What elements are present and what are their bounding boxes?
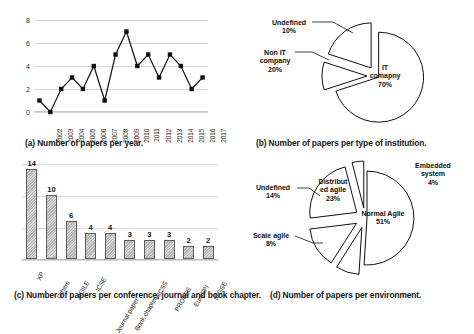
x-axis-tick-label: 2017 xyxy=(219,129,226,143)
pie-chart-b: ITcomapny70%Undefined10%Non ITcompany20% xyxy=(237,8,474,138)
data-point-marker xyxy=(92,64,96,68)
pie-slice-label: 8% xyxy=(266,240,277,247)
data-point-marker xyxy=(37,98,41,102)
pie-slice-label: Distribut xyxy=(319,178,348,185)
y-axis-tick-label: 2 xyxy=(26,86,30,93)
y-axis-tick-label: 8 xyxy=(26,17,30,24)
x-axis-tick-label: 2011 xyxy=(154,128,161,141)
y-axis-tick-label: 4 xyxy=(26,63,30,70)
bar-value-label: 2 xyxy=(186,236,190,245)
gridline xyxy=(22,260,218,261)
caption-c: (c) Number of papers per conference, jou… xyxy=(14,290,261,300)
line-series-path xyxy=(39,32,202,113)
data-point-marker xyxy=(157,75,161,79)
bar xyxy=(124,240,135,259)
pie-slice-label: Embedded xyxy=(415,162,451,169)
pie-slice-label: Non IT xyxy=(264,49,286,56)
chart-b-papers-per-institution: ITcomapny70%Undefined10%Non ITcompany20% xyxy=(237,8,474,138)
data-point-marker xyxy=(200,75,204,79)
bar-value-label: 3 xyxy=(167,230,171,239)
bar-chart-x-axis xyxy=(22,259,218,260)
pie-chart-d: Normal Agile51%Embeddedsystem4%Distribut… xyxy=(237,152,474,282)
pie-slice-label: 14% xyxy=(266,192,281,199)
pie-slice-label: company xyxy=(260,57,291,65)
bar-value-label: 3 xyxy=(147,230,151,239)
data-point-marker xyxy=(81,87,85,91)
bar-value-label: 14 xyxy=(28,159,36,168)
bar xyxy=(203,246,214,259)
data-point-marker xyxy=(124,29,128,33)
pie-slice-label: ed agile xyxy=(320,186,346,194)
pie-slice-wedge xyxy=(328,23,371,68)
y-axis-tick-label: 0 xyxy=(26,109,30,116)
pie-slice-label: IT xyxy=(382,64,389,71)
x-axis-tick-label: 2012 xyxy=(165,129,172,143)
bar-chart-plot-area: 14XP10Others6AGILE4ICSE4Journal paper3Bo… xyxy=(22,164,218,260)
pie-slice-label: 51% xyxy=(376,218,391,225)
pie-slice-label: 70% xyxy=(378,81,393,88)
caption-b: (b) Number of papers per type of institu… xyxy=(256,138,426,148)
gridline xyxy=(34,112,208,113)
bar xyxy=(85,233,96,259)
data-point-marker xyxy=(59,87,63,91)
data-point-marker xyxy=(113,52,117,56)
bar-value-label: 3 xyxy=(128,230,132,239)
data-point-marker xyxy=(70,75,74,79)
x-axis-tick-label: 2016 xyxy=(209,129,216,143)
x-axis-tick-label: 2014 xyxy=(187,129,194,143)
data-point-marker xyxy=(102,98,106,102)
chart-c-papers-per-venue: 14XP10Others6AGILE4ICSE4Journal paper3Bo… xyxy=(0,152,237,282)
pie-slice-label: 4% xyxy=(428,179,439,186)
bar-value-label: 2 xyxy=(206,236,210,245)
pie-slice-label: 10% xyxy=(282,27,297,34)
bar-value-label: 4 xyxy=(88,223,92,232)
pie-slice xyxy=(328,23,371,68)
caption-d: (d) Number of papers per environment. xyxy=(270,290,421,300)
caption-a: (a) Number of papers per year. xyxy=(25,138,143,148)
pie-slice-label: 23% xyxy=(326,195,341,202)
data-point-marker xyxy=(168,52,172,56)
data-point-marker xyxy=(189,87,193,91)
bar-value-label: 6 xyxy=(69,211,73,220)
bar xyxy=(144,240,155,259)
bar xyxy=(105,233,116,259)
bar xyxy=(26,169,37,259)
data-point-marker xyxy=(146,52,150,56)
x-axis-tick-label: 2015 xyxy=(198,129,205,143)
pie-slice-label: Undefined xyxy=(272,19,306,26)
data-point-marker xyxy=(48,110,52,114)
pie-slice-label: Undefined xyxy=(256,184,290,191)
x-axis-tick-label: 2013 xyxy=(176,129,183,143)
pie-slice-label: system xyxy=(421,170,445,178)
pie-slice-label: comapny xyxy=(370,72,401,80)
data-point-marker xyxy=(135,64,139,68)
y-axis-tick-label: 6 xyxy=(26,40,30,47)
label-leader-line xyxy=(295,52,329,60)
bar xyxy=(183,246,194,259)
data-point-marker xyxy=(179,64,183,68)
bar xyxy=(164,240,175,259)
pie-slice-label: 20% xyxy=(268,66,283,73)
chart-a-papers-per-year: 0246820022003200420052006200720082009201… xyxy=(0,8,237,138)
x-axis-tick-label: 2010 xyxy=(143,129,150,143)
line-chart-series xyxy=(34,20,208,112)
chart-d-papers-per-environment: Normal Agile51%Embeddedsystem4%Distribut… xyxy=(237,152,474,282)
bar-category-label: XP xyxy=(35,270,45,281)
bar xyxy=(66,221,77,259)
pie-slice-label: Scale agile xyxy=(253,232,289,240)
gridline xyxy=(22,164,218,165)
line-chart-plot-area: 0246820022003200420052006200720082009201… xyxy=(34,20,208,112)
line-chart-a: 0246820022003200420052006200720082009201… xyxy=(0,8,237,138)
bar-value-label: 4 xyxy=(108,223,112,232)
bar-value-label: 10 xyxy=(47,185,55,194)
bar xyxy=(46,195,57,259)
pie-slice-label: Normal Agile xyxy=(362,210,405,218)
